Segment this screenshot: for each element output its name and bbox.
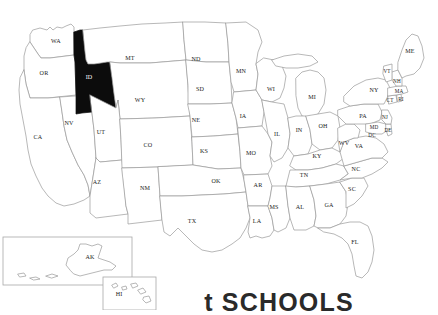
state-label-RI: RI: [398, 96, 404, 102]
state-label-NV: NV: [64, 120, 74, 126]
state-label-PA: PA: [359, 113, 367, 119]
state-label-MI: MI: [308, 94, 316, 100]
state-label-WI: WI: [267, 86, 275, 92]
state-label-LA: LA: [253, 218, 262, 224]
state-label-VT: VT: [383, 68, 391, 74]
state-label-DE: DE: [384, 127, 391, 133]
state-label-KS: KS: [200, 148, 209, 154]
state-label-OK: OK: [211, 178, 221, 184]
state-shape-NM[interactable]: [122, 167, 162, 224]
state-shape-TX[interactable]: [160, 192, 250, 252]
state-label-VA: VA: [355, 143, 364, 149]
state-label-CO: CO: [144, 142, 153, 148]
state-label-TX: TX: [188, 218, 197, 224]
hawaii-inset-box: [103, 277, 156, 310]
state-label-SD: SD: [196, 86, 205, 92]
state-label-OR: OR: [40, 70, 50, 76]
state-label-FL: FL: [351, 239, 359, 245]
state-label-GA: GA: [324, 202, 334, 208]
state-label-AZ: AZ: [93, 179, 102, 185]
state-label-DC: DC: [368, 132, 376, 138]
state-shape-ME[interactable]: [398, 34, 424, 78]
state-label-MA: MA: [395, 88, 404, 94]
state-label-NY: NY: [369, 87, 379, 93]
state-label-AL: AL: [296, 204, 305, 210]
state-label-NC: NC: [352, 166, 361, 172]
state-label-MT: MT: [125, 55, 135, 61]
state-label-KY: KY: [312, 153, 322, 159]
state-label-MO: MO: [246, 150, 257, 156]
state-label-ME: ME: [405, 48, 415, 54]
state-label-WY: WY: [135, 97, 146, 103]
state-label-HI: HI: [116, 291, 123, 297]
state-label-NJ: NJ: [382, 114, 388, 120]
state-shape-MN[interactable]: [226, 22, 262, 92]
state-shape-CO[interactable]: [120, 116, 193, 168]
state-label-CT: CT: [387, 97, 395, 103]
state-shape-WY[interactable]: [110, 60, 190, 119]
state-label-MD: MD: [370, 124, 379, 130]
state-label-NH: NH: [393, 78, 401, 84]
state-shape-ND[interactable]: [183, 22, 229, 62]
state-label-OH: OH: [318, 123, 328, 129]
hawaii-inset-group: HI: [103, 277, 156, 310]
state-shape-NY[interactable]: [344, 78, 390, 106]
state-label-ID: ID: [86, 74, 93, 80]
state-label-AK: AK: [85, 254, 95, 260]
state-shape-MI-upper[interactable]: [272, 54, 318, 68]
state-label-UT: UT: [97, 129, 106, 135]
state-label-CA: CA: [34, 134, 43, 140]
state-shape-SD[interactable]: [186, 60, 232, 104]
state-label-NE: NE: [192, 117, 201, 123]
state-label-TN: TN: [300, 172, 309, 178]
state-label-ND: ND: [191, 56, 201, 62]
state-label-MN: MN: [236, 68, 247, 74]
state-label-AR: AR: [254, 182, 264, 188]
state-label-IN: IN: [296, 127, 303, 133]
state-label-SC: SC: [348, 186, 356, 192]
state-label-WV: WV: [339, 140, 350, 146]
state-label-IA: IA: [240, 113, 247, 119]
state-label-WA: WA: [51, 38, 61, 44]
state-shape-AR[interactable]: [244, 174, 272, 206]
state-shape-FL[interactable]: [318, 222, 374, 278]
state-shape-OK[interactable]: [158, 165, 246, 196]
state-label-NM: NM: [140, 185, 151, 191]
state-label-MS: MS: [269, 204, 279, 210]
state-label-IL: IL: [274, 131, 280, 137]
